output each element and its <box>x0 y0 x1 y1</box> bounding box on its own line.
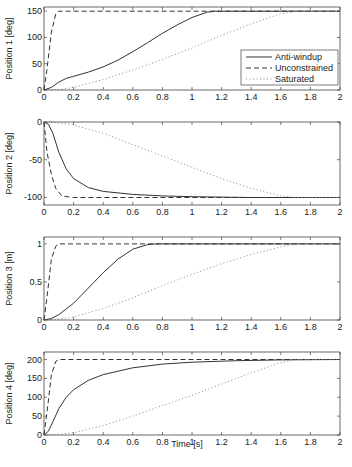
y-tick-label: -50 <box>29 155 42 165</box>
x-tick-label: 0 <box>41 437 46 447</box>
legend-label: Anti-windup <box>275 52 322 62</box>
y-tick-label: 1 <box>37 239 42 249</box>
x-tick-label: 1.6 <box>275 207 288 217</box>
series-anti-windup <box>44 244 340 320</box>
series-unconstrained <box>44 122 340 198</box>
y-axis-label: Position 4 [deg] <box>4 362 14 424</box>
x-axis-label: Time [s] <box>171 439 203 449</box>
series-saturated <box>44 122 340 198</box>
x-tick-label: 0.6 <box>127 322 140 332</box>
x-tick-label: 1.4 <box>245 92 258 102</box>
x-tick-label: 0.2 <box>67 322 80 332</box>
x-tick-label: 0.2 <box>67 207 80 217</box>
series-unconstrained <box>44 360 340 436</box>
x-tick-label: 1.2 <box>215 437 228 447</box>
x-tick-label: 0.8 <box>156 322 169 332</box>
y-axis-label: Position 2 [deg] <box>4 132 14 194</box>
x-tick-label: 1.6 <box>275 322 288 332</box>
legend: Anti-windupUnconstrainedSaturated <box>241 50 338 85</box>
legend-label: Saturated <box>275 74 314 84</box>
x-tick-label: 2 <box>337 437 342 447</box>
series-anti-windup <box>44 360 340 436</box>
x-tick-label: 1.8 <box>304 322 317 332</box>
x-tick-label: 1 <box>189 207 194 217</box>
x-tick-label: 0.6 <box>127 437 140 447</box>
x-tick-label: 0 <box>41 322 46 332</box>
x-tick-label: 0.8 <box>156 207 169 217</box>
y-tick-label: -100 <box>24 192 42 202</box>
subplot-2: 00.20.40.60.811.21.41.61.82-100-500Posit… <box>4 117 343 217</box>
y-tick-label: 50 <box>32 411 42 421</box>
subplot-3: 00.20.40.60.811.21.41.61.8200.51Position… <box>4 237 343 332</box>
x-tick-label: 0.8 <box>156 92 169 102</box>
axes-frame <box>44 122 340 205</box>
x-tick-label: 1.4 <box>245 207 258 217</box>
y-tick-label: 0 <box>37 430 42 440</box>
y-tick-label: 0 <box>37 85 42 95</box>
x-tick-label: 1 <box>189 92 194 102</box>
x-tick-label: 1 <box>189 322 194 332</box>
x-tick-label: 0 <box>41 207 46 217</box>
x-tick-label: 0.6 <box>127 207 140 217</box>
legend-label: Unconstrained <box>275 63 333 73</box>
x-tick-label: 0.4 <box>97 207 110 217</box>
x-tick-label: 1.2 <box>215 92 228 102</box>
x-tick-label: 1.8 <box>304 207 317 217</box>
y-tick-label: 0.5 <box>29 277 42 287</box>
x-tick-label: 2 <box>337 92 342 102</box>
x-tick-label: 0.2 <box>67 92 80 102</box>
series-saturated <box>44 360 340 436</box>
y-tick-label: 100 <box>27 392 42 402</box>
y-tick-label: 0 <box>37 117 42 127</box>
series-saturated <box>44 244 340 320</box>
x-tick-label: 1.4 <box>245 437 258 447</box>
x-tick-label: 0.6 <box>127 92 140 102</box>
x-tick-label: 0.4 <box>97 322 110 332</box>
series-anti-windup <box>44 122 340 198</box>
x-tick-label: 0.4 <box>97 92 110 102</box>
x-tick-label: 2 <box>337 207 342 217</box>
y-tick-label: 200 <box>27 355 42 365</box>
subplot-4: 00.20.40.60.811.21.41.61.82050100150200P… <box>4 352 343 449</box>
x-tick-label: 0.2 <box>67 437 80 447</box>
y-tick-label: 50 <box>32 59 42 69</box>
figure: 00.20.40.60.811.21.41.61.82050100150Posi… <box>0 0 352 467</box>
y-tick-label: 150 <box>27 6 42 16</box>
x-tick-label: 1.8 <box>304 437 317 447</box>
x-tick-label: 0.4 <box>97 437 110 447</box>
x-tick-label: 0 <box>41 92 46 102</box>
x-tick-label: 1.8 <box>304 92 317 102</box>
x-tick-label: 1.6 <box>275 92 288 102</box>
series-unconstrained <box>44 244 340 320</box>
y-tick-label: 0 <box>37 315 42 325</box>
axes-frame <box>44 237 340 320</box>
x-tick-label: 1.6 <box>275 437 288 447</box>
x-tick-label: 1.4 <box>245 322 258 332</box>
x-tick-label: 0.8 <box>156 437 169 447</box>
x-tick-label: 1.2 <box>215 322 228 332</box>
x-tick-label: 2 <box>337 322 342 332</box>
x-tick-label: 1.2 <box>215 207 228 217</box>
y-axis-label: Position 3 [m] <box>4 251 14 306</box>
axes-frame <box>44 352 340 435</box>
y-tick-label: 100 <box>27 32 42 42</box>
y-tick-label: 150 <box>27 373 42 383</box>
y-axis-label: Position 1 [deg] <box>4 17 14 79</box>
